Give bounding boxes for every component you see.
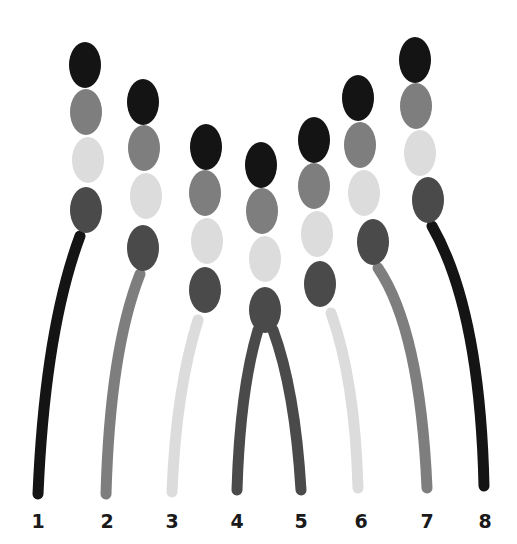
chain-label-6: 6 bbox=[354, 510, 367, 532]
stem-8 bbox=[432, 226, 484, 486]
stem-5 bbox=[273, 330, 301, 490]
chain-label-2: 2 bbox=[100, 510, 113, 532]
bead-5-2 bbox=[298, 163, 330, 209]
bead-7-4 bbox=[412, 177, 444, 223]
stem-2 bbox=[106, 274, 140, 494]
chain-label-4: 4 bbox=[230, 510, 243, 532]
bead-4-1 bbox=[245, 142, 277, 188]
stem-7 bbox=[378, 268, 427, 488]
stem-4 bbox=[237, 330, 258, 490]
chain-label-8: 8 bbox=[478, 510, 491, 532]
bead-4-3 bbox=[249, 236, 281, 282]
bead-5-3 bbox=[301, 211, 333, 257]
bead-6-2 bbox=[344, 122, 376, 168]
bead-3-1 bbox=[190, 124, 222, 170]
bead-6-4 bbox=[357, 219, 389, 265]
bead-7-3 bbox=[404, 130, 436, 176]
bead-6-1 bbox=[342, 75, 374, 121]
bead-1-1 bbox=[69, 42, 101, 88]
bead-7-2 bbox=[400, 83, 432, 129]
bead-2-4 bbox=[127, 225, 159, 271]
bead-2-3 bbox=[130, 173, 162, 219]
bead-2-1 bbox=[127, 79, 159, 125]
bead-4-2 bbox=[246, 188, 278, 234]
bead-chain-diagram: 12345678 bbox=[0, 0, 517, 544]
bead-6-3 bbox=[348, 170, 380, 216]
bead-2-2 bbox=[128, 125, 160, 171]
bead-1-3 bbox=[72, 137, 104, 183]
bead-1-4 bbox=[70, 187, 102, 233]
bead-5-1 bbox=[298, 117, 330, 163]
labels-layer: 12345678 bbox=[31, 510, 491, 532]
stem-3 bbox=[172, 320, 198, 492]
chain-label-3: 3 bbox=[165, 510, 178, 532]
stem-1 bbox=[38, 236, 80, 494]
bead-3-2 bbox=[189, 170, 221, 216]
bead-5-4 bbox=[304, 261, 336, 307]
bead-7-1 bbox=[399, 37, 431, 83]
chain-label-5: 5 bbox=[294, 510, 307, 532]
chain-label-7: 7 bbox=[420, 510, 433, 532]
chain-label-1: 1 bbox=[31, 510, 44, 532]
bead-1-2 bbox=[70, 89, 102, 135]
stem-6 bbox=[331, 313, 358, 488]
bead-3-4 bbox=[189, 267, 221, 313]
bead-3-3 bbox=[191, 218, 223, 264]
bead-4-4 bbox=[249, 287, 281, 333]
